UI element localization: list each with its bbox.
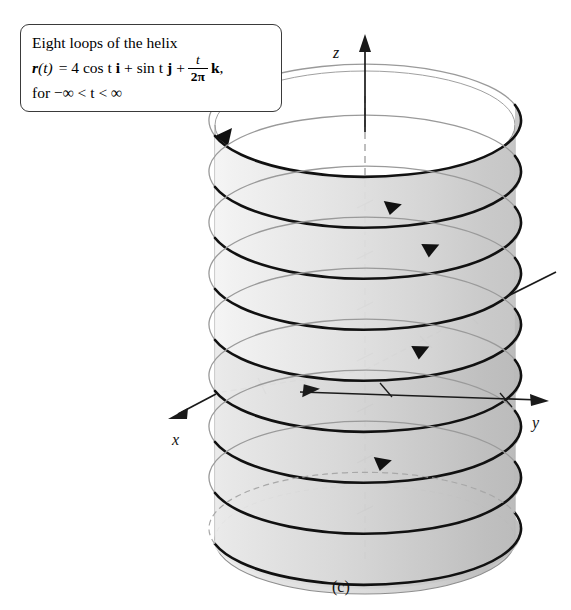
unit-vector-k: k xyxy=(211,57,220,79)
unit-vector-j: j xyxy=(167,57,172,79)
plus-sign: + xyxy=(176,57,185,79)
z-axis xyxy=(359,34,371,132)
caption-line-2: r(t)= 4 cos ti+ sin tj+ t 2π k, xyxy=(32,54,271,82)
z-axis-label: z xyxy=(333,44,339,62)
y-axis-label: y xyxy=(532,414,539,432)
x-axis xyxy=(168,394,216,419)
fraction-t-over-2pi: t 2π xyxy=(188,53,208,83)
unit-vector-i: i xyxy=(116,57,120,79)
trailing-comma: , xyxy=(220,57,224,79)
caption-line-3: for −∞ < t < ∞ xyxy=(32,82,271,104)
x-axis-label: x xyxy=(172,431,179,449)
caption-line-1: Eight loops of the helix xyxy=(32,32,271,54)
figure-subcaption: (c) xyxy=(332,578,350,596)
equation-sin-term: + sin t xyxy=(124,57,163,79)
helix-figure: Eight loops of the helix r(t)= 4 cos ti+… xyxy=(0,0,571,610)
fraction-numerator: t xyxy=(194,53,202,68)
fraction-denominator: 2π xyxy=(189,69,207,84)
equation-lhs: = 4 cos t xyxy=(59,57,112,79)
parameter-t-arg: (t) xyxy=(38,57,53,79)
caption-box: Eight loops of the helix r(t)= 4 cos ti+… xyxy=(20,24,282,112)
